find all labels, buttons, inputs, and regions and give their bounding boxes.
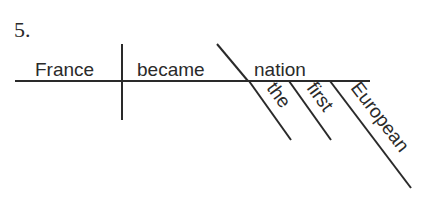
- subject-word: France: [35, 59, 94, 80]
- item-number: 5.: [14, 17, 31, 42]
- sentence-diagram: 5. France became nation the first Europe…: [0, 0, 421, 198]
- verb-word: became: [137, 59, 205, 80]
- complement-divider: [217, 44, 248, 81]
